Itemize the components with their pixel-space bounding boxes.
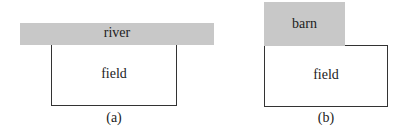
barn-label: barn [264, 16, 345, 32]
figure-b: barn field (b) [0, 0, 407, 133]
caption-b: (b) [264, 110, 388, 126]
field-label-b: field [264, 67, 388, 83]
